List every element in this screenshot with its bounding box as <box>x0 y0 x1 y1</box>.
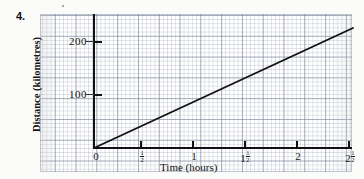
y-tick-100 <box>95 94 102 96</box>
y-axis-line <box>93 14 95 149</box>
x-axis-title: Time (hours) <box>160 161 217 173</box>
stray-speck-mark <box>62 5 64 7</box>
x-tick-label-one-and-half-whole: 1 <box>240 152 246 164</box>
x-tick-label-0-text: 0 <box>93 150 99 162</box>
y-tick-label-200: 200 <box>61 35 87 47</box>
x-tick-label-two-and-half: 212 <box>339 150 361 164</box>
y-axis-title: Distance (kilometres) <box>31 20 42 150</box>
y-tick-100-left <box>86 94 94 95</box>
worksheet-graph-page: 4. 200 100 0 12 1 112 2 212 Distance (ki… <box>0 0 364 179</box>
x-tick-label-half: 12 <box>131 150 153 164</box>
x-tick-label-0: 0 <box>85 150 107 162</box>
x-tick-two <box>296 141 298 149</box>
x-tick-label-2: 2 <box>287 150 309 162</box>
x-tick-half <box>140 141 142 149</box>
x-tick-one <box>192 141 194 149</box>
y-tick-200-left <box>86 41 94 42</box>
y-tick-label-100: 100 <box>61 88 87 100</box>
y-tick-200 <box>95 41 102 43</box>
x-tick-one-and-a-half <box>244 141 246 149</box>
x-tick-label-one-and-half: 112 <box>234 150 256 164</box>
x-tick-label-2-text: 2 <box>295 150 301 162</box>
fraction-one-half-b: 12 <box>246 150 250 163</box>
fraction-denominator: 2 <box>351 157 355 163</box>
fraction-denominator: 2 <box>246 157 250 163</box>
fraction-one-half-c: 12 <box>351 150 355 163</box>
fraction-denominator: 2 <box>140 157 144 163</box>
x-tick-two-and-a-half <box>348 141 350 149</box>
question-number: 4. <box>16 10 25 22</box>
x-axis-line <box>93 147 352 149</box>
fraction-one-half: 12 <box>140 150 144 163</box>
x-tick-label-two-and-half-whole: 2 <box>345 152 351 164</box>
